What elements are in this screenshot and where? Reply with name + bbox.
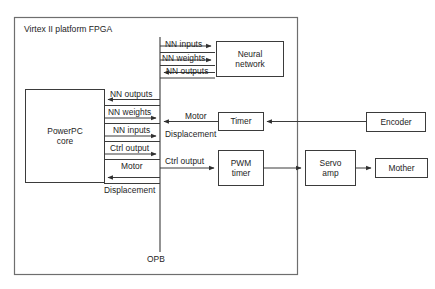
- signal-label-motor-left: Motor: [121, 162, 143, 172]
- neural-network-box: [217, 42, 284, 77]
- fpga-system-block-diagram: Virtex II platform FPGA NN inputs NN wei…: [0, 0, 435, 289]
- signal-label-nn-outputs-top: NN outputs: [166, 67, 208, 77]
- opb-bus-label: OPB: [147, 255, 165, 265]
- signal-label-displacement-left: Displacement: [104, 186, 155, 196]
- signal-label-motor-bus: Motor: [185, 112, 207, 122]
- signal-label-nn-outputs-left: NN outputs: [110, 90, 152, 100]
- signal-label-ctrl-output-left: Ctrl output: [110, 144, 149, 154]
- signal-label-nn-weights-top: NN weights: [162, 54, 205, 64]
- signal-label-nn-inputs-top: NN inputs: [165, 40, 202, 50]
- powerpc-core-box: [26, 90, 105, 183]
- servo-amp-box: [306, 151, 356, 186]
- mother-box: [376, 159, 428, 178]
- signal-label-displacement-bus: Displacement: [165, 130, 216, 140]
- signal-label-nn-inputs-left: NN inputs: [113, 126, 150, 136]
- encoder-box: [367, 113, 426, 132]
- fpga-title-label: Virtex II platform FPGA: [24, 24, 112, 34]
- signal-label-nn-weights-left: NN weights: [108, 108, 151, 118]
- signal-label-ctrl-output-bus: Ctrl output: [165, 157, 204, 167]
- diagram-canvas: [0, 0, 435, 289]
- pwm-timer-box: [219, 151, 264, 186]
- timer-box: [219, 113, 264, 131]
